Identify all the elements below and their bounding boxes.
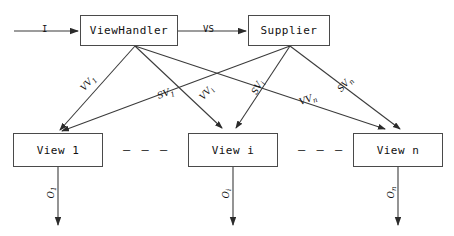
edge-label-o1-sub: 1 xyxy=(50,187,58,191)
edge-label-on: On xyxy=(386,186,399,198)
edge-label-oi-sub: i xyxy=(225,189,233,191)
edge-label-o1-base: O xyxy=(46,191,56,198)
node-view-i-label: View i xyxy=(212,144,255,157)
edge-label-oi: Oi xyxy=(221,189,234,199)
node-viewhandler[interactable]: ViewHandler xyxy=(80,15,178,46)
node-view-1[interactable]: View 1 xyxy=(13,133,103,167)
node-supplier[interactable]: Supplier xyxy=(248,15,330,46)
node-viewhandler-label: ViewHandler xyxy=(90,24,168,37)
separator-right: – – – xyxy=(298,143,344,157)
edge-label-o1: O1 xyxy=(46,187,59,199)
diagram-canvas: ViewHandler Supplier View 1 View i View … xyxy=(0,0,454,236)
node-view-i[interactable]: View i xyxy=(188,133,278,167)
node-supplier-label: Supplier xyxy=(261,24,318,37)
edge-label-input: I xyxy=(42,24,47,34)
separator-left: – – – xyxy=(123,143,169,157)
node-view-1-label: View 1 xyxy=(37,144,80,157)
edge-label-on-base: O xyxy=(386,191,396,198)
node-view-n-label: View n xyxy=(377,144,420,157)
edge-label-vs: VS xyxy=(203,24,214,34)
connector-layer xyxy=(0,0,454,236)
edge-label-oi-base: O xyxy=(221,191,231,198)
node-view-n[interactable]: View n xyxy=(353,133,443,167)
edge-label-on-sub: n xyxy=(390,186,398,191)
